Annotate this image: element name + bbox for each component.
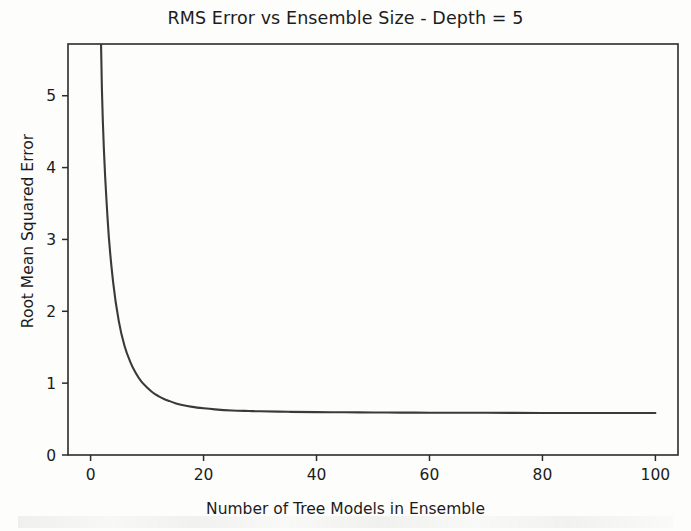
y-axis-ticks: 012345 bbox=[46, 87, 68, 464]
x-tick-label: 100 bbox=[641, 466, 671, 484]
y-tick-label: 4 bbox=[46, 159, 56, 177]
x-tick-label: 0 bbox=[86, 466, 96, 484]
y-tick-label: 3 bbox=[46, 231, 56, 249]
y-tick-label: 2 bbox=[46, 303, 56, 321]
axes-frame bbox=[68, 44, 678, 455]
x-tick-label: 60 bbox=[420, 466, 440, 484]
y-tick-label: 0 bbox=[46, 447, 56, 465]
y-tick-label: 1 bbox=[46, 375, 56, 393]
chart-figure: RMS Error vs Ensemble Size - Depth = 5 R… bbox=[0, 0, 691, 531]
data-series-group bbox=[96, 0, 655, 413]
axes-box bbox=[68, 44, 678, 455]
x-tick-label: 20 bbox=[194, 466, 214, 484]
data-series-line bbox=[96, 0, 655, 413]
x-tick-label: 40 bbox=[307, 466, 327, 484]
y-tick-label: 5 bbox=[46, 87, 56, 105]
x-axis-ticks: 020406080100 bbox=[86, 455, 671, 484]
plot-area: 020406080100 012345 bbox=[0, 0, 691, 531]
x-tick-label: 80 bbox=[533, 466, 553, 484]
